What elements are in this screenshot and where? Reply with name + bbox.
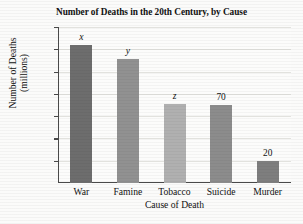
plot-area: 14012010080604020 xyz7020 [58,27,291,183]
bar-value-suicide: 70 [201,92,241,102]
x-axis-label: Cause of Death [58,199,291,210]
bar-value-tobacco: z [155,91,195,101]
y-tick-mark [54,161,59,162]
y-tick-mark [54,94,59,95]
bar-famine [117,59,139,183]
bar-value-war: x [61,32,101,42]
gridline [58,49,291,50]
bar-suicide [210,105,232,183]
bar-value-murder: 20 [248,148,288,158]
chart-title: Number of Deaths in the 20th Century, by… [0,7,303,18]
bar-value-famine: y [108,46,148,56]
bar-tobacco [164,104,186,183]
bar-war [70,45,92,183]
gridline [58,72,291,73]
y-axis-label-line-2: (millions) [18,3,29,143]
y-tick-mark [54,49,59,50]
x-tick-label-murder: Murder [238,186,298,197]
bar-murder [257,161,279,183]
y-tick-mark [54,138,59,139]
y-tick-mark [54,72,59,73]
y-tick-mark [54,116,59,117]
bar-chart-figure: Number of Deaths in the 20th Century, by… [0,0,303,224]
y-axis-label-line-1: Number of Deaths [7,3,18,143]
gridline [58,27,291,28]
y-axis-label: Number of Deaths (millions) [7,3,37,143]
y-tick-mark [54,27,59,28]
